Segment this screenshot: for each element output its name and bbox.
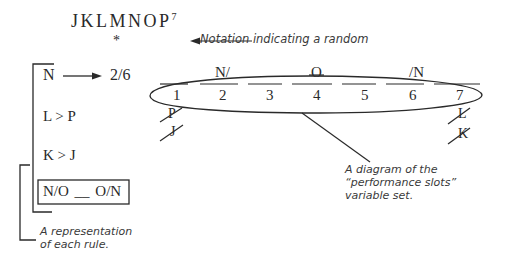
random-marker: *	[113, 33, 120, 49]
rule-k-j: K > J	[43, 147, 76, 164]
slots-leader-line	[302, 113, 370, 162]
slot-6-label: /N	[409, 64, 424, 81]
slot-2-label: N/	[215, 64, 230, 81]
rules-annotation-line1: A representation	[40, 225, 132, 238]
rules-annotation-line2: of each rule.	[40, 238, 132, 251]
slot-2: 2	[219, 87, 227, 104]
variable-letters: JKLMNOP	[71, 11, 172, 31]
slots-annotation-line3: variable set.	[345, 189, 456, 202]
slot-1-j: J	[170, 124, 175, 140]
slot-3: 3	[266, 87, 274, 104]
variable-list: JKLMNOP7	[71, 11, 177, 32]
rules-annotation: A representation of each rule.	[40, 225, 132, 251]
random-annotation: Notation indicating a random	[200, 32, 368, 46]
rule-n-target: 2/6	[110, 66, 130, 84]
slots-annotation-line2: “performance slots”	[345, 176, 456, 189]
rule-arrow-icon	[63, 73, 102, 80]
slot-6: 6	[409, 87, 417, 104]
slot-7-k: K	[458, 126, 468, 142]
slot-4: 4	[313, 87, 321, 104]
slots-annotation-line1: A diagram of the	[345, 163, 456, 176]
slot-1-p: P	[168, 106, 176, 122]
slot-1: 1	[173, 87, 181, 104]
slot-5: 5	[361, 87, 369, 104]
slots-annotation: A diagram of the “performance slots” var…	[345, 163, 456, 202]
rule-n: N	[43, 66, 55, 84]
slot-7: 7	[456, 87, 464, 104]
rule-l-p: L > P	[43, 108, 76, 125]
slot-7-l: L	[458, 106, 467, 122]
rule-no-on: N/O __ O/N	[43, 183, 121, 200]
slot-4-label: O	[311, 64, 322, 81]
variable-count: 7	[172, 11, 177, 22]
